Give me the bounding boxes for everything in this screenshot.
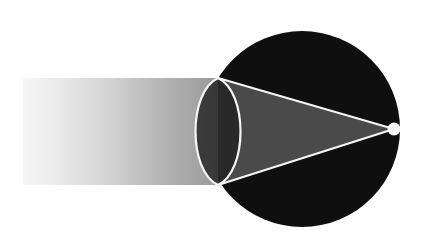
ray-diagram-svg [0,0,430,242]
light-beam-band [23,78,222,185]
focal-point-dot [388,123,401,136]
figure-canvas [0,0,430,242]
